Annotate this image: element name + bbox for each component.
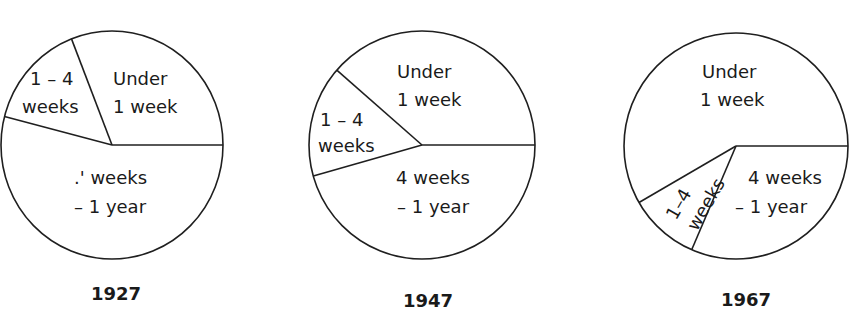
pie-1947-label-long-line2: – 1 year: [397, 196, 470, 217]
pie-1947-label-long-line1: 4 weeks: [396, 167, 470, 188]
pie-chart-figure: Under 1 week 1 – 4 weeks .' weeks – 1 ye…: [0, 0, 850, 320]
pie-1927: Under 1 week 1 – 4 weeks .' weeks – 1 ye…: [1, 31, 223, 304]
pie-1947-label-under-line2: 1 week: [397, 89, 462, 110]
pie-1947: Under 1 week 1 – 4 weeks 4 weeks – 1 yea…: [309, 31, 535, 311]
pie-1927-label-under-line1: Under: [113, 68, 168, 89]
pie-1967-label-long-line1: 4 weeks: [748, 167, 822, 188]
pie-1967-label-under-line2: 1 week: [700, 89, 765, 110]
pie-1947-label-under-line1: Under: [397, 61, 452, 82]
pie-1967-label-long-line2: – 1 year: [735, 196, 808, 217]
pie-1947-label-1to4-line1: 1 – 4: [320, 109, 363, 130]
pie-1967-year: 1967: [721, 289, 771, 310]
pie-1927-label-1to4-line2: weeks: [22, 96, 79, 117]
pie-1927-label-long-line1: .' weeks: [74, 167, 147, 188]
pie-1947-label-1to4-line2: weeks: [318, 135, 375, 156]
pie-1927-label-long-line2: – 1 year: [74, 196, 147, 217]
pie-1967: Under 1 week 1–4 weeks 4 weeks – 1 year …: [624, 33, 848, 310]
pie-1927-label-under-line2: 1 week: [113, 96, 178, 117]
pie-1947-year: 1947: [403, 290, 453, 311]
pie-1967-label-under-line1: Under: [702, 61, 757, 82]
pie-1927-label-1to4-line1: 1 – 4: [30, 68, 73, 89]
pie-1927-year: 1927: [91, 283, 141, 304]
